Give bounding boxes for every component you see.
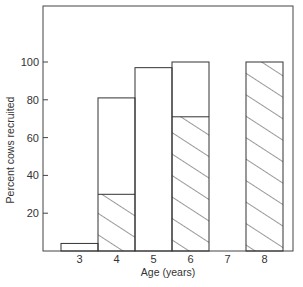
x-tick-label: 6 [187, 253, 193, 265]
x-tick-label: 3 [76, 253, 82, 265]
x-axis-title: Age (years) [141, 266, 195, 278]
y-tick-label: 20 [27, 207, 39, 219]
y-tick-label: 60 [27, 132, 39, 144]
chart: 20406080100 345678 Age (years) Percent c… [0, 0, 303, 287]
bar-hatched-4 [98, 194, 135, 251]
y-axis: 20406080100 [21, 56, 48, 219]
x-tick-label: 8 [261, 253, 267, 265]
y-tick-label: 80 [27, 94, 39, 106]
bar-hatched-6 [172, 117, 209, 251]
y-tick-label: 40 [27, 169, 39, 181]
x-tick-label: 4 [113, 253, 119, 265]
x-axis: 345678 [76, 253, 267, 265]
bar-3 [61, 243, 98, 251]
x-tick-label: 7 [224, 253, 230, 265]
y-tick-label: 100 [21, 56, 39, 68]
bars [61, 62, 283, 251]
y-axis-title: Percent cows recruited [4, 96, 16, 203]
bar-5 [135, 68, 172, 251]
x-tick-label: 5 [150, 253, 156, 265]
bar-hatched-8 [246, 62, 283, 251]
